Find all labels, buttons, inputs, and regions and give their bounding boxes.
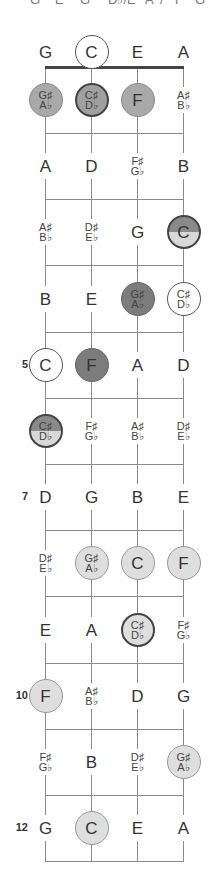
fret-line-3 bbox=[45, 265, 184, 266]
note-label: F bbox=[40, 688, 50, 705]
enharmonic-label: G♯A♭ bbox=[84, 553, 98, 573]
enharmonic-label: F♯G♭ bbox=[131, 156, 145, 176]
flat-name: G♭ bbox=[85, 431, 99, 441]
note-label: B bbox=[178, 158, 189, 175]
fret-line-7 bbox=[45, 530, 184, 531]
flat-name: A♭ bbox=[177, 762, 189, 772]
note-fret5-string2-highlighted: F bbox=[75, 348, 109, 382]
note-fret6-string1-highlighted: C♯D♭ bbox=[29, 414, 63, 448]
note-fret11-string1: F♯G♭ bbox=[35, 749, 57, 775]
note-fret0-string4: A bbox=[173, 39, 195, 65]
enharmonic-label: C♯D♭ bbox=[85, 90, 98, 110]
enharmonic-label: D♯E♭ bbox=[39, 553, 52, 573]
fret-line-12 bbox=[45, 861, 184, 862]
enharmonic-label: A♯B♭ bbox=[131, 421, 144, 441]
note-fret6-string3: A♯B♭ bbox=[127, 418, 149, 444]
enharmonic-label: D♯E♭ bbox=[131, 752, 144, 772]
note-fret9-string4: F♯G♭ bbox=[173, 617, 195, 643]
note-fret12-string1: G bbox=[35, 815, 57, 841]
note-label: C bbox=[85, 820, 97, 837]
fret-line-1 bbox=[45, 133, 184, 134]
fret-number-marker: 12 bbox=[12, 821, 28, 833]
enharmonic-label: G♯A♭ bbox=[38, 90, 52, 110]
flat-name: D♭ bbox=[177, 299, 190, 309]
fret-number-marker: 10 bbox=[12, 689, 28, 701]
fret-line-9 bbox=[45, 663, 184, 664]
note-fret6-string4: D♯E♭ bbox=[173, 418, 195, 444]
flat-name: D♭ bbox=[39, 431, 52, 441]
note-fret12-string2-highlighted: C bbox=[75, 811, 109, 845]
note-fret3-string3: G bbox=[127, 219, 149, 245]
flat-name: G♭ bbox=[177, 630, 191, 640]
note-fret11-string2: B bbox=[81, 749, 103, 775]
note-fret3-string2: D♯E♭ bbox=[81, 219, 103, 245]
enharmonic-label: C♯D♭ bbox=[131, 620, 144, 640]
note-fret1-string1-highlighted: G♯A♭ bbox=[29, 83, 63, 117]
flat-name: E♭ bbox=[177, 431, 189, 441]
fret-line-10 bbox=[45, 729, 184, 730]
note-label: C bbox=[177, 224, 189, 241]
note-label: G bbox=[85, 489, 98, 506]
note-label: D bbox=[177, 357, 189, 374]
fret-line-4 bbox=[45, 332, 184, 333]
flat-name: A♭ bbox=[39, 100, 51, 110]
enharmonic-label: G♯A♭ bbox=[176, 752, 190, 772]
note-label: D bbox=[131, 688, 143, 705]
fret-line-2 bbox=[45, 199, 184, 200]
note-fret2-string3: F♯G♭ bbox=[127, 153, 149, 179]
flat-name: G♭ bbox=[131, 166, 145, 176]
note-fret3-string4-highlighted: C bbox=[167, 215, 201, 249]
note-label: A bbox=[178, 820, 189, 837]
note-label: E bbox=[178, 489, 189, 506]
note-fret8-string4-highlighted: F bbox=[167, 546, 201, 580]
note-fret10-string1-highlighted: F bbox=[29, 679, 63, 713]
enharmonic-label: A♯B♭ bbox=[177, 90, 190, 110]
flat-name: B♭ bbox=[131, 431, 143, 441]
note-label: E bbox=[132, 44, 143, 61]
note-label: A bbox=[86, 622, 97, 639]
note-fret2-string2: D bbox=[81, 153, 103, 179]
note-fret0-string2-highlighted: C bbox=[75, 35, 109, 69]
fret-line-8 bbox=[45, 596, 184, 597]
note-fret7-string1: D bbox=[35, 484, 57, 510]
flat-name: A♭ bbox=[85, 563, 97, 573]
note-fret7-string3: B bbox=[127, 484, 149, 510]
flat-name: B♭ bbox=[177, 100, 189, 110]
note-fret4-string2: E bbox=[81, 286, 103, 312]
note-fret0-string1: G bbox=[35, 39, 57, 65]
note-fret4-string3-highlighted: G♯A♭ bbox=[121, 282, 155, 316]
note-fret10-string4: G bbox=[173, 683, 195, 709]
note-label: G bbox=[177, 688, 190, 705]
fret-line-11 bbox=[45, 795, 184, 796]
enharmonic-label: D♯E♭ bbox=[177, 421, 190, 441]
note-fret4-string1: B bbox=[35, 286, 57, 312]
note-fret2-string4: B bbox=[173, 153, 195, 179]
fret-number-marker: 7 bbox=[12, 490, 28, 502]
enharmonic-label: D♯E♭ bbox=[85, 222, 98, 242]
enharmonic-label: F♯G♭ bbox=[85, 421, 99, 441]
flat-name: D♭ bbox=[85, 100, 98, 110]
note-fret7-string2: G bbox=[81, 484, 103, 510]
note-label: B bbox=[86, 754, 97, 771]
note-fret1-string3-highlighted: F bbox=[121, 83, 155, 117]
note-fret10-string3: D bbox=[127, 683, 149, 709]
note-label: G bbox=[39, 820, 52, 837]
note-label: C bbox=[85, 44, 97, 61]
note-label: F bbox=[132, 92, 142, 109]
flat-name: E♭ bbox=[39, 563, 51, 573]
note-label: E bbox=[132, 820, 143, 837]
fret-number-marker: 5 bbox=[12, 358, 28, 370]
note-fret11-string4-highlighted: G♯A♭ bbox=[167, 745, 201, 779]
note-fret1-string2-highlighted: C♯D♭ bbox=[75, 83, 109, 117]
note-fret0-string3: E bbox=[127, 39, 149, 65]
note-fret9-string3-highlighted: C♯D♭ bbox=[121, 613, 155, 647]
enharmonic-label: F♯G♭ bbox=[39, 752, 53, 772]
note-fret3-string1: A♯B♭ bbox=[35, 219, 57, 245]
note-fret6-string2: F♯G♭ bbox=[81, 418, 103, 444]
note-label: G bbox=[39, 44, 52, 61]
enharmonic-label: F♯G♭ bbox=[177, 620, 191, 640]
note-label: F bbox=[178, 555, 188, 572]
flat-name: B♭ bbox=[39, 232, 51, 242]
enharmonic-label: C♯D♭ bbox=[39, 421, 52, 441]
note-fret1-string4: A♯B♭ bbox=[173, 87, 195, 113]
